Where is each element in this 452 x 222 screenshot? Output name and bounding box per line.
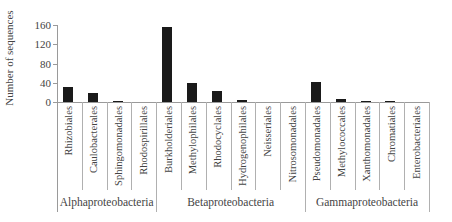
y-tick-label: 40 — [27, 77, 51, 89]
category-divider — [206, 102, 207, 190]
group-label: Betaproteobacteria — [156, 196, 305, 208]
category-divider — [330, 102, 331, 190]
group-divider — [429, 102, 430, 212]
group-label: Gammaproteobacteria — [305, 196, 429, 208]
bar-hydrogenophilales — [237, 100, 247, 102]
category-label: Rhodospirillales — [138, 106, 149, 175]
group-label: Alphaproteobacteria — [57, 196, 156, 208]
y-tick-label: 120 — [27, 38, 51, 50]
category-label: Methylococcales — [336, 106, 347, 177]
bar-rhizobiales — [63, 87, 73, 102]
y-tick — [53, 25, 57, 26]
y-tick — [53, 44, 57, 45]
category-divider — [107, 102, 108, 190]
category-label: Pseudomonadales — [311, 106, 322, 181]
y-tick-label: 160 — [27, 19, 51, 31]
category-label: Sphingomonadales — [113, 106, 124, 186]
category-label: Rhizobiales — [63, 106, 74, 156]
category-label: Nitrosomonadales — [287, 106, 298, 182]
bar-caulobacterales — [88, 93, 98, 102]
bar-sphingomonadales — [113, 101, 123, 102]
category-divider — [404, 102, 405, 190]
category-label: Neisseriales — [262, 106, 273, 157]
category-divider — [379, 102, 380, 190]
bar-methylococcales — [336, 99, 346, 102]
category-label: Methylophilales — [187, 106, 198, 174]
y-axis-label: Number of sequences — [3, 10, 15, 105]
bar-pseudomonadales — [311, 82, 321, 102]
category-divider — [280, 102, 281, 190]
category-label: Enterobacteriales — [411, 106, 422, 179]
bar-rhodocyclales — [212, 91, 222, 102]
y-tick — [53, 83, 57, 84]
category-label: Xanthomonadales — [361, 106, 372, 182]
category-divider — [231, 102, 232, 190]
category-divider — [82, 102, 83, 190]
category-divider — [181, 102, 182, 190]
category-label: Chromatiales — [386, 106, 397, 162]
bar-burkholderiales — [162, 27, 172, 102]
category-label: Burkholderiales — [163, 106, 174, 173]
category-divider — [131, 102, 132, 190]
y-tick-label: 0 — [27, 96, 51, 108]
category-divider — [355, 102, 356, 190]
category-label: Caulobacterales — [88, 106, 99, 173]
bar-chart: Number of sequences 04080120160Rhizobial… — [0, 0, 452, 222]
x-axis-baseline — [57, 102, 429, 103]
bar-chromatiales — [385, 101, 395, 102]
y-tick-label: 80 — [27, 58, 51, 70]
y-tick — [53, 64, 57, 65]
category-label: Hydrogenophilales — [237, 106, 248, 186]
category-divider — [255, 102, 256, 190]
category-label: Rhodocyclales — [212, 106, 223, 168]
y-axis-line — [57, 25, 58, 212]
bar-methylophilales — [187, 83, 197, 102]
bar-xanthomonadales — [361, 101, 371, 102]
